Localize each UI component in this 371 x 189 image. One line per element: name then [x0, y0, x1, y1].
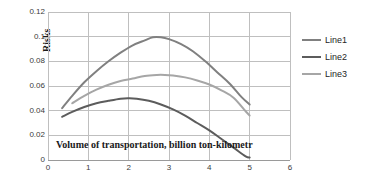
legend-item-label: Line2: [325, 52, 347, 62]
legend-item-label: Line3: [325, 69, 347, 79]
x-tick-label: 6: [288, 164, 292, 172]
y-tick-label: 0.08: [29, 57, 45, 65]
legend-line-swatch-icon: [302, 73, 321, 75]
y-tick-label: 0.12: [29, 8, 45, 16]
y-tick-label: 0: [41, 156, 45, 164]
y-tick-label: 0.02: [29, 131, 45, 139]
series-line-line3: [72, 75, 249, 116]
legend-item-line3[interactable]: Line3: [302, 65, 368, 82]
legend-item-line1[interactable]: Line1: [302, 31, 368, 48]
x-axis-tick-labels: 0123456: [48, 164, 290, 176]
y-tick-label: 0.06: [29, 82, 45, 90]
series-line-line1: [62, 37, 250, 108]
risks-vs-volume-line-chart: 00.020.040.060.080.10.12 Risks Volume of…: [0, 0, 371, 189]
series-lines: [48, 12, 290, 160]
x-tick-label: 5: [247, 164, 251, 172]
x-tick-label: 0: [46, 164, 50, 172]
y-tick-label: 0.04: [29, 107, 45, 115]
x-tick-label: 4: [207, 164, 211, 172]
legend-item-line2[interactable]: Line2: [302, 48, 368, 65]
plot-area: [48, 12, 290, 160]
x-tick-label: 2: [126, 164, 130, 172]
x-tick-label: 1: [86, 164, 90, 172]
x-tick-label: 3: [167, 164, 171, 172]
legend-line-swatch-icon: [302, 39, 321, 41]
chart-legend: Line1Line2Line3: [302, 31, 368, 82]
x-axis-title: Volume of transportation, billion ton-ki…: [56, 139, 253, 150]
legend-line-swatch-icon: [302, 56, 321, 58]
legend-item-label: Line1: [325, 35, 347, 45]
